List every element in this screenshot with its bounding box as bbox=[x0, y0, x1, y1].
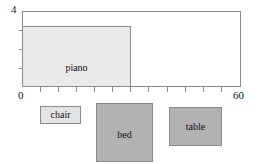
x-axis-max-label: 60 bbox=[233, 90, 244, 101]
rect-bed-label: bed bbox=[117, 130, 131, 140]
rect-chair[interactable]: chair bbox=[40, 106, 81, 124]
y-axis-max-label: 4 bbox=[11, 4, 17, 15]
x-axis-min-label: 0 bbox=[18, 90, 24, 101]
rect-bed[interactable]: bed bbox=[96, 103, 153, 162]
x-axis-tick-10 bbox=[203, 86, 204, 92]
rect-piano-label: piano bbox=[65, 63, 87, 73]
x-axis-tick-9 bbox=[185, 86, 186, 92]
rect-piano[interactable]: piano bbox=[22, 26, 131, 87]
plot-frame-top-line bbox=[22, 11, 241, 12]
rect-table-label: table bbox=[186, 122, 205, 132]
x-axis-tick-7 bbox=[148, 86, 149, 92]
rect-table[interactable]: table bbox=[169, 107, 222, 146]
plot-frame-right-line bbox=[240, 11, 241, 87]
rect-chair-label: chair bbox=[51, 110, 71, 120]
x-axis-tick-11 bbox=[221, 86, 222, 92]
bin-packing-figure: 4 0 60 piano chair bed table bbox=[0, 0, 261, 164]
x-axis-tick-8 bbox=[167, 86, 168, 92]
